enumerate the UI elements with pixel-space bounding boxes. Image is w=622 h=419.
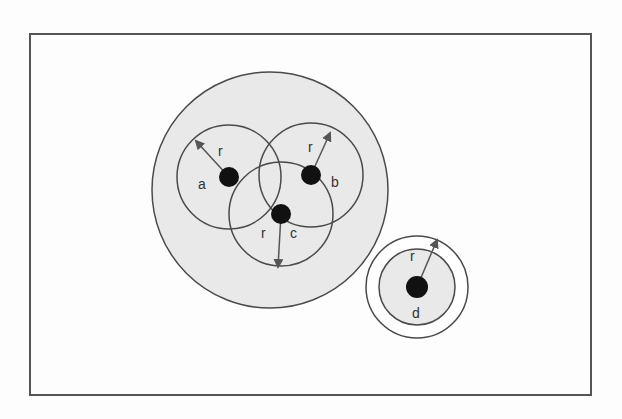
node-c-radius-label: r [261,225,266,241]
node-c-label: c [290,225,297,241]
node-a-radius-label: r [218,143,223,159]
cluster-range-circle [152,72,388,308]
node-d-radius-label: r [410,248,415,264]
node-b-label: b [331,174,339,190]
node-d [406,276,428,298]
node-a [219,167,239,187]
node-c [271,204,291,224]
network-range-diagram: a b c d r r r r [0,0,622,419]
diagram-canvas: a b c d r r r r [0,0,622,419]
node-b-radius-label: r [308,139,313,155]
node-d-label: d [412,305,420,321]
node-a-label: a [198,176,206,192]
node-b [301,165,321,185]
